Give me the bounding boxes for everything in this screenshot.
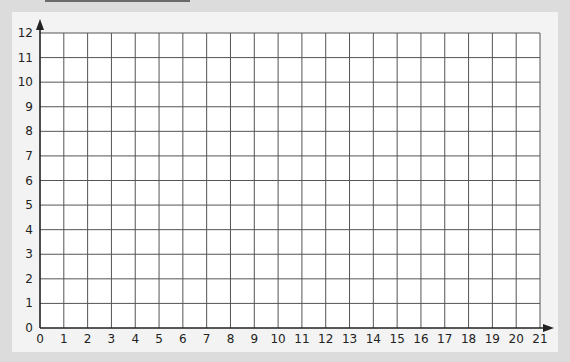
x-tick-label: 19 [485,332,500,346]
x-tick-label: 7 [203,332,211,346]
y-tick-label: 7 [25,149,33,163]
y-tick-label: 5 [25,198,33,212]
x-tick-label: 1 [60,332,68,346]
y-tick-label: 6 [25,174,33,188]
y-tick-label: 4 [25,223,33,237]
y-tick-label: 9 [25,100,33,114]
x-tick-label: 5 [155,332,163,346]
y-tick-label: 3 [25,247,33,261]
x-tick-label: 14 [366,332,381,346]
x-tick-label: 17 [437,332,452,346]
x-axis-tick-labels: 0123456789101112131415161718192021 [36,332,547,346]
x-tick-label: 0 [36,332,44,346]
x-tick-label: 15 [390,332,405,346]
x-tick-label: 6 [179,332,187,346]
x-tick-label: 11 [294,332,309,346]
x-tick-label: 16 [413,332,428,346]
y-tick-label: 8 [25,124,33,138]
y-tick-label: 1 [25,296,33,310]
y-tick-label: 11 [18,51,33,65]
x-tick-label: 3 [108,332,116,346]
x-tick-label: 2 [84,332,92,346]
x-tick-label: 4 [131,332,139,346]
y-axis-tick-labels: 0123456789101112 [18,26,33,335]
x-axis-arrow-icon [543,324,554,332]
y-tick-label: 10 [18,75,33,89]
x-tick-label: 8 [227,332,235,346]
y-tick-label: 0 [25,321,33,335]
x-tick-label: 9 [250,332,258,346]
y-tick-label: 12 [18,26,33,40]
x-tick-label: 18 [461,332,476,346]
x-tick-label: 12 [318,332,333,346]
x-tick-label: 10 [270,332,285,346]
x-tick-label: 13 [342,332,357,346]
y-tick-label: 2 [25,272,33,286]
coordinate-grid-chart: 0123456789101112131415161718192021 01234… [0,0,570,362]
x-tick-label: 20 [509,332,524,346]
x-tick-label: 21 [532,332,547,346]
y-axis-arrow-icon [36,19,44,30]
